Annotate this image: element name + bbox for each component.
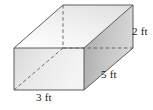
prism-face-front xyxy=(14,48,84,90)
dimension-label-height: 2 ft xyxy=(132,26,148,37)
prism-drawing xyxy=(0,0,153,110)
dimension-label-width: 3 ft xyxy=(36,92,52,103)
dimension-label-depth: 5 ft xyxy=(101,69,117,80)
rectangular-prism-figure: 2 ft 5 ft 3 ft xyxy=(0,0,153,110)
